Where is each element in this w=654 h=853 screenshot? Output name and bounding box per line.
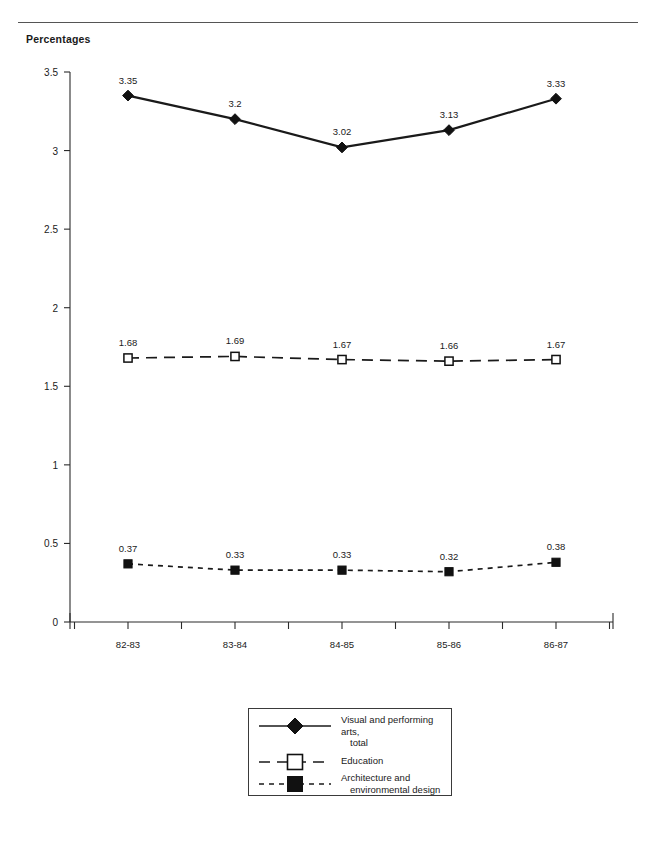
legend-label-line2: environmental design — [341, 784, 451, 796]
legend-label-line1: Visual and performing arts, — [341, 714, 433, 737]
legend-label-line2: total — [341, 737, 451, 749]
series-2-point-0 — [124, 560, 132, 568]
chart-page: Percentages 00.511.522.533.5 82-8383-848… — [0, 0, 654, 853]
x-axis-tick-label: 82-83 — [116, 639, 140, 650]
y-axis-tick-label: 0.5 — [14, 538, 58, 549]
x-axis-tick-label: 84-85 — [330, 639, 354, 650]
legend-marker-square-filled — [288, 777, 303, 792]
series-0-point-1 — [230, 114, 241, 125]
data-label: 1.67 — [547, 339, 566, 350]
series-1-point-4 — [552, 355, 560, 363]
marker-diamond — [230, 114, 241, 125]
legend-swatch-svg — [257, 713, 333, 739]
marker-square-filled — [231, 566, 239, 574]
chart-legend: Visual and performing arts,totalEducatio… — [248, 708, 452, 796]
chart-svg — [0, 0, 654, 700]
data-label: 1.68 — [119, 337, 138, 348]
marker-square-open — [231, 352, 239, 360]
series-1-point-1 — [231, 352, 239, 360]
marker-square-open — [445, 357, 453, 365]
series-0-point-3 — [444, 125, 455, 136]
y-axis-tick-label: 3 — [14, 145, 58, 156]
series-2-point-3 — [445, 568, 453, 576]
y-axis-tick-label: 1 — [14, 459, 58, 470]
data-label: 0.38 — [547, 541, 566, 552]
marker-diamond — [337, 142, 348, 153]
marker-diamond — [444, 125, 455, 136]
x-axis-tick-label: 83-84 — [223, 639, 247, 650]
marker-diamond — [123, 90, 134, 101]
legend-label-line1: Architecture and — [341, 772, 410, 783]
line-chart-plot-area: 00.511.522.533.5 82-8383-8484-8585-8686-… — [0, 0, 654, 700]
data-label: 3.2 — [228, 98, 241, 109]
series-0-point-2 — [337, 142, 348, 153]
data-label: 0.33 — [333, 549, 352, 560]
data-label: 0.37 — [119, 543, 138, 554]
series-0-point-4 — [551, 93, 562, 104]
data-label: 1.67 — [333, 339, 352, 350]
series-1-point-0 — [124, 354, 132, 362]
series-2-point-4 — [552, 558, 560, 566]
legend-label: Education — [341, 755, 451, 767]
x-axis-tick-label: 86-87 — [544, 639, 568, 650]
y-axis-tick-label: 0 — [14, 617, 58, 628]
legend-label: Architecture andenvironmental design — [341, 772, 451, 795]
marker-square-open — [124, 354, 132, 362]
data-label: 0.33 — [226, 549, 245, 560]
legend-item-0: Visual and performing arts,total — [249, 713, 451, 739]
legend-swatch-svg — [257, 771, 333, 797]
marker-square-filled — [338, 566, 346, 574]
legend-swatch — [257, 771, 333, 797]
y-axis-tick-label: 2 — [14, 302, 58, 313]
legend-marker-diamond — [287, 718, 303, 734]
series-0-point-0 — [123, 90, 134, 101]
series-1-point-3 — [445, 357, 453, 365]
series-2-point-1 — [231, 566, 239, 574]
data-label: 3.35 — [119, 75, 138, 86]
marker-square-filled — [445, 568, 453, 576]
legend-label: Visual and performing arts,total — [341, 714, 451, 749]
data-label: 0.32 — [440, 551, 459, 562]
marker-square-open — [338, 355, 346, 363]
data-label: 1.66 — [440, 340, 459, 351]
y-axis-tick-label: 3.5 — [14, 67, 58, 78]
marker-square-open — [552, 355, 560, 363]
legend-label-line1: Education — [341, 755, 383, 766]
series-1-point-2 — [338, 355, 346, 363]
legend-item-2: Architecture andenvironmental design — [249, 771, 451, 797]
data-label: 3.13 — [440, 109, 459, 120]
data-label: 3.02 — [333, 126, 352, 137]
legend-marker-square-open — [288, 755, 303, 770]
x-axis-tick-label: 85-86 — [437, 639, 461, 650]
y-axis-tick-label: 1.5 — [14, 381, 58, 392]
data-label: 3.33 — [547, 78, 566, 89]
y-axis-tick-label: 2.5 — [14, 224, 58, 235]
series-2-point-2 — [338, 566, 346, 574]
marker-diamond — [551, 93, 562, 104]
legend-swatch — [257, 713, 333, 739]
series-line-0 — [128, 96, 556, 148]
marker-square-filled — [124, 560, 132, 568]
data-label: 1.69 — [226, 335, 245, 346]
marker-square-filled — [552, 558, 560, 566]
